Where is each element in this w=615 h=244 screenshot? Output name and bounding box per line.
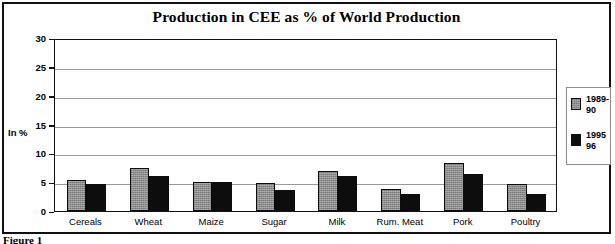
bar <box>256 183 275 211</box>
bar <box>67 180 86 211</box>
x-axis-label: Rum. Meat <box>368 216 431 227</box>
chart-title: Production in CEE as % of World Producti… <box>4 8 609 26</box>
chart-screenshot: Production in CEE as % of World Producti… <box>0 0 615 244</box>
y-tick-label: 25 <box>6 63 46 73</box>
legend-swatch-icon-series-1 <box>571 134 581 146</box>
x-axis-label: Pork <box>431 216 494 227</box>
bar <box>193 182 212 211</box>
bar-group <box>318 40 357 211</box>
bars-layer <box>55 40 556 211</box>
bar <box>444 163 463 211</box>
legend-label-series-0-line2: 90 <box>586 105 596 115</box>
bar <box>401 194 420 211</box>
bar <box>212 182 231 211</box>
x-axis-label: Wheat <box>117 216 180 227</box>
x-axis-label: Milk <box>306 216 369 227</box>
x-axis-label: Cereals <box>54 216 117 227</box>
bar-group <box>444 40 483 211</box>
bar <box>130 168 149 211</box>
legend-label-series-1-line1: 1995 <box>586 130 606 140</box>
y-tick-label: 20 <box>6 92 46 102</box>
bar <box>507 184 526 211</box>
x-axis-label: Maize <box>180 216 243 227</box>
bar <box>275 190 294 211</box>
chart-legend: 1989- 90 1995 96 <box>566 87 611 165</box>
figure-caption: Figure 1 <box>3 235 42 244</box>
y-tick-label: 10 <box>6 149 46 159</box>
bar-group <box>130 40 169 211</box>
y-tick-label: 0 <box>6 207 46 217</box>
bar <box>149 176 168 211</box>
legend-label-series-0-line1: 1989- <box>586 94 609 104</box>
x-axis-label: Sugar <box>243 216 306 227</box>
bar <box>318 171 337 211</box>
bar-group <box>256 40 295 211</box>
legend-label-series-0: 1989- 90 <box>586 94 614 115</box>
bar <box>464 174 483 211</box>
y-tick-label: 15 <box>6 121 46 131</box>
legend-label-series-1-line2: 96 <box>586 141 596 151</box>
bar <box>381 189 400 211</box>
bar-group <box>67 40 106 211</box>
bar <box>527 194 546 211</box>
bar-group <box>381 40 420 211</box>
plot-area <box>54 39 557 212</box>
bar <box>86 184 105 211</box>
bar <box>338 176 357 211</box>
y-tick-label: 5 <box>6 178 46 188</box>
legend-swatch-icon-series-0 <box>571 98 581 110</box>
x-axis-label: Poultry <box>494 216 557 227</box>
legend-label-series-1: 1995 96 <box>586 130 614 151</box>
y-tick-label: 30 <box>6 34 46 44</box>
chart-frame: Production in CEE as % of World Producti… <box>2 2 611 234</box>
bar-group <box>193 40 232 211</box>
bar-group <box>507 40 546 211</box>
